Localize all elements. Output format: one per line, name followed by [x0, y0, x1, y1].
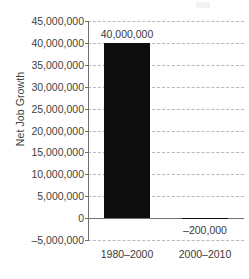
bar-value-label: –200,000: [183, 224, 227, 236]
bar: [182, 218, 228, 219]
y-axis-tick-label: 35,000,000: [0, 59, 84, 71]
plot-area: [88, 21, 244, 240]
gridline: [88, 240, 244, 241]
y-axis-tick-label: 5,000,000: [0, 190, 84, 202]
y-axis-tick-label: 0: [0, 212, 84, 224]
y-axis-tick-label: 10,000,000: [0, 168, 84, 180]
bar: [104, 43, 150, 218]
y-axis-tick-label: 45,000,000: [0, 15, 84, 27]
x-axis-tick-label: 1980–2000: [101, 248, 154, 260]
scan-artifact: [196, 2, 210, 8]
gridline: [88, 21, 244, 22]
bar-value-label: 40,000,000: [101, 28, 154, 40]
y-axis-tick-labels: 45,000,00040,000,00035,000,00030,000,000…: [0, 21, 84, 240]
x-axis-tick-label: 2000–2010: [179, 248, 232, 260]
bar-chart-figure: Net Job Growth 45,000,00040,000,00035,00…: [0, 0, 249, 279]
y-axis-tick-label: 20,000,000: [0, 125, 84, 137]
y-axis-line: [88, 21, 89, 240]
y-axis-tick-label: 25,000,000: [0, 103, 84, 115]
y-axis-tick-label: 40,000,000: [0, 37, 84, 49]
y-axis-tick-mark: [85, 240, 89, 241]
y-axis-tick-label: –5,000,000: [0, 234, 84, 246]
y-axis-tick-label: 15,000,000: [0, 146, 84, 158]
y-axis-tick-label: 30,000,000: [0, 81, 84, 93]
